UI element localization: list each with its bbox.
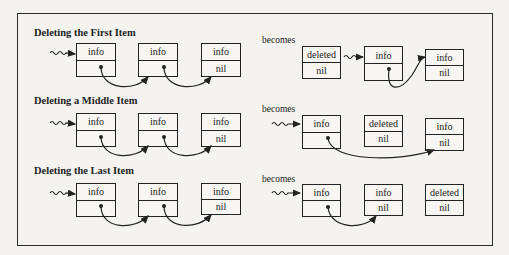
pointer-dot (387, 67, 391, 71)
link-arrow (328, 138, 434, 158)
pointer-dot (99, 135, 103, 139)
pointer-dot (99, 204, 103, 208)
head-pointer-squiggle (344, 56, 363, 59)
pointer-dot (99, 65, 103, 69)
link-arrow (101, 137, 148, 156)
head-pointer-squiggle (272, 192, 300, 195)
link-arrow (101, 207, 148, 226)
link-arrow (389, 57, 425, 87)
pointer-dot (162, 135, 166, 139)
head-pointer-squiggle (50, 192, 75, 195)
linked-list-deletion-diagram: Deleting the First Item Deleting a Middl… (0, 0, 509, 255)
head-pointer-squiggle (272, 123, 300, 126)
link-arrow (328, 207, 376, 226)
link-arrow (164, 137, 211, 156)
pointer-dot (162, 204, 166, 208)
pointer-arrows (0, 0, 509, 255)
head-pointer-squiggle (50, 122, 75, 125)
pointer-dot (326, 136, 330, 140)
link-arrow (164, 207, 211, 225)
pointer-dot (162, 65, 166, 69)
link-arrow (164, 68, 211, 87)
link-arrow (101, 68, 148, 87)
pointer-dot (326, 205, 330, 209)
head-pointer-squiggle (50, 52, 75, 55)
